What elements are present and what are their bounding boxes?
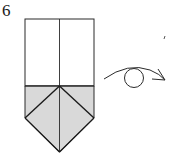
- origami-diagram: [0, 0, 169, 153]
- turn-over-icon: [104, 67, 165, 87]
- stray-mark: [164, 36, 165, 39]
